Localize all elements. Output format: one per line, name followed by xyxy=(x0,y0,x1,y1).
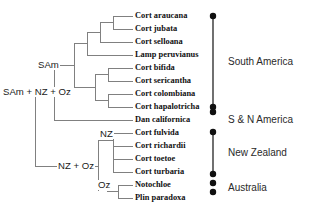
taxon-label-notochloe: Notochloe xyxy=(135,181,171,189)
region-label-australia: Australia xyxy=(228,183,267,193)
taxon-label-cort-bifida: Cort bifida xyxy=(135,64,175,72)
node-label-oz: Oz xyxy=(97,180,111,190)
taxon-label-lamp-peruvianus: Lamp peruvianus xyxy=(135,51,199,59)
region-label-south-america: South America xyxy=(228,57,293,67)
node-label-nz: NZ xyxy=(99,129,114,139)
taxon-label-cort-fulvida: Cort fulvida xyxy=(135,129,179,137)
taxon-label-plin-paradoxa: Plin paradoxa xyxy=(135,194,186,202)
taxon-label-cort-jubata: Cort jubata xyxy=(135,25,177,33)
region-label-new-zealand: New Zealand xyxy=(228,148,287,158)
phylogenetic-tree-figure: Cort araucana Cort jubata Cort selloana … xyxy=(0,0,318,207)
taxon-label-cort-araucana: Cort araucana xyxy=(135,12,187,20)
bracket-dot-south-america-top xyxy=(210,13,215,18)
region-label-s-n-america: S & N America xyxy=(228,115,293,125)
bracket-dot-new-zealand-bottom xyxy=(210,171,215,176)
bracket-dot-australia-top xyxy=(210,180,215,185)
node-label-sam: SAm xyxy=(37,60,60,70)
node-label-sam-nz-oz: SAm + NZ + Oz xyxy=(2,87,72,97)
taxon-label-cort-hapalotricha: Cort hapalotricha xyxy=(135,103,199,111)
taxon-label-cort-sericantha: Cort sericantha xyxy=(135,77,191,85)
taxon-label-cort-colombiana: Cort colombiana xyxy=(135,90,195,98)
taxon-label-cort-toetoe: Cort toetoe xyxy=(135,155,175,163)
taxon-label-cort-richardii: Cort richardii xyxy=(135,142,185,150)
node-label-nz-oz: NZ + Oz xyxy=(57,161,95,171)
taxon-label-dan-californica: Dan californica xyxy=(135,116,190,124)
taxon-label-cort-turbaria: Cort turbaria xyxy=(135,168,184,176)
bracket-dot-australia-bottom xyxy=(210,189,215,194)
taxon-label-cort-selloana: Cort selloana xyxy=(135,38,183,46)
bracket-dot-new-zealand-top xyxy=(210,129,215,134)
bracket-dot-s-n-america xyxy=(210,109,215,114)
